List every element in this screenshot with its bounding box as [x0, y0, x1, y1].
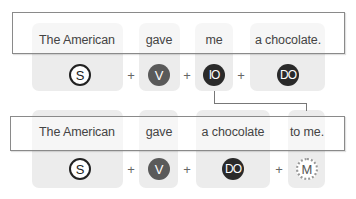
s1-verb-label: V: [155, 68, 164, 83]
s2-word-direct-object: a chocolate: [202, 125, 265, 139]
s2-direct-object-label: DO: [225, 162, 241, 176]
s2-plus-2: +: [183, 162, 191, 177]
s1-word-direct-object: a chocolate.: [255, 33, 321, 47]
s1-direct-object-label: DO: [280, 68, 296, 82]
s2-plus-1: +: [127, 162, 135, 177]
connector-line-across: [214, 103, 307, 104]
s2-plus-3: +: [275, 162, 283, 177]
s1-word-subject: The American: [39, 33, 115, 47]
s2-modifier-label: M: [302, 162, 313, 177]
s2-subject-circle: S: [69, 158, 91, 180]
s2-word-verb: gave: [146, 125, 173, 139]
s1-word-verb: gave: [146, 33, 173, 47]
s2-word-subject: The American: [39, 125, 115, 139]
s1-subject-label: S: [76, 68, 85, 83]
s2-verb-label: V: [155, 162, 164, 177]
s1-plus-3: +: [237, 68, 245, 83]
s2-word-modifier: to me.: [290, 125, 324, 139]
s2-direct-object-circle: DO: [222, 158, 244, 180]
s2-modifier-circle: M: [296, 158, 318, 180]
connector-line-down-to-m: [306, 103, 307, 111]
s1-plus-1: +: [127, 68, 135, 83]
s2-verb-circle: V: [148, 158, 170, 180]
s1-indirect-object-circle: IO: [203, 64, 225, 86]
s1-direct-object-circle: DO: [277, 64, 299, 86]
s1-subject-circle: S: [69, 64, 91, 86]
s1-word-indirect-object: me: [205, 33, 222, 47]
s2-subject-label: S: [76, 162, 85, 177]
s1-verb-circle: V: [148, 64, 170, 86]
s1-plus-2: +: [183, 68, 191, 83]
s1-indirect-object-label: IO: [209, 68, 220, 82]
